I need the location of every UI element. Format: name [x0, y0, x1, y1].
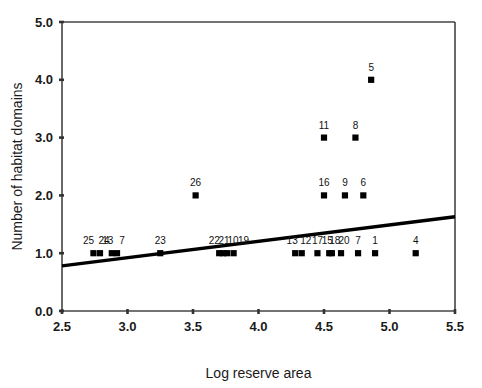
- data-point-label: 13: [287, 235, 299, 246]
- x-tick-label: 4.0: [249, 319, 267, 334]
- y-tick-label: 2.0: [35, 188, 53, 203]
- data-point-marker: [321, 135, 327, 141]
- x-tick-label: 2.5: [53, 319, 71, 334]
- data-point-marker: [329, 250, 335, 256]
- x-tick-label: 4.5: [315, 319, 333, 334]
- x-tick-label: 5.0: [380, 319, 398, 334]
- data-point-marker: [292, 250, 298, 256]
- y-axis-title: Number of habitat domains: [9, 82, 25, 250]
- y-tick-label: 1.0: [35, 246, 53, 261]
- data-point-label: 23: [155, 235, 167, 246]
- y-tick-label: 4.0: [35, 72, 53, 87]
- data-point-marker: [368, 77, 374, 83]
- x-tick-label: 3.5: [184, 319, 202, 334]
- data-point-label: 4: [413, 235, 419, 246]
- x-axis-title: Log reserve area: [206, 365, 312, 381]
- data-point-marker: [157, 250, 163, 256]
- data-point-label: 11: [319, 120, 330, 131]
- data-point-marker: [314, 250, 320, 256]
- x-tick-label: 3.0: [118, 319, 136, 334]
- data-point-label: 16: [318, 177, 330, 188]
- data-point-label: 26: [190, 177, 202, 188]
- data-point-label: 25: [83, 235, 95, 246]
- data-point-marker: [231, 250, 237, 256]
- data-point-label: 1: [372, 235, 378, 246]
- data-point-marker: [352, 135, 358, 141]
- data-point-marker: [97, 250, 103, 256]
- data-point-label: 12: [300, 235, 312, 246]
- data-point-marker: [193, 192, 199, 198]
- data-point-marker: [360, 192, 366, 198]
- data-point-label: 9: [342, 177, 348, 188]
- plot-canvas: 0.01.02.03.04.05.02.53.03.54.04.55.05.5L…: [0, 0, 482, 388]
- data-point-marker: [338, 250, 344, 256]
- data-point-marker: [224, 250, 230, 256]
- y-tick-label: 0.0: [35, 304, 53, 319]
- data-point-label: 7: [119, 235, 125, 246]
- data-point-marker: [299, 250, 305, 256]
- data-point-label: 13: [102, 235, 114, 246]
- data-point-label: 6: [361, 177, 367, 188]
- data-point-marker: [90, 250, 96, 256]
- x-tick-label: 5.5: [446, 319, 464, 334]
- data-point-label: 20: [338, 235, 350, 246]
- data-point-marker: [413, 250, 419, 256]
- data-point-label: 19: [238, 235, 250, 246]
- y-tick-label: 3.0: [35, 130, 53, 145]
- data-point-marker: [114, 250, 120, 256]
- data-point-marker: [321, 192, 327, 198]
- data-point-label: 8: [353, 120, 359, 131]
- data-point-marker: [372, 250, 378, 256]
- scatter-plot-figure: 0.01.02.03.04.05.02.53.03.54.04.55.05.5L…: [0, 0, 482, 388]
- data-point-label: 7: [355, 235, 361, 246]
- y-tick-label: 5.0: [35, 15, 53, 30]
- data-point-label: 5: [368, 62, 374, 73]
- data-point-marker: [355, 250, 361, 256]
- data-point-marker: [342, 192, 348, 198]
